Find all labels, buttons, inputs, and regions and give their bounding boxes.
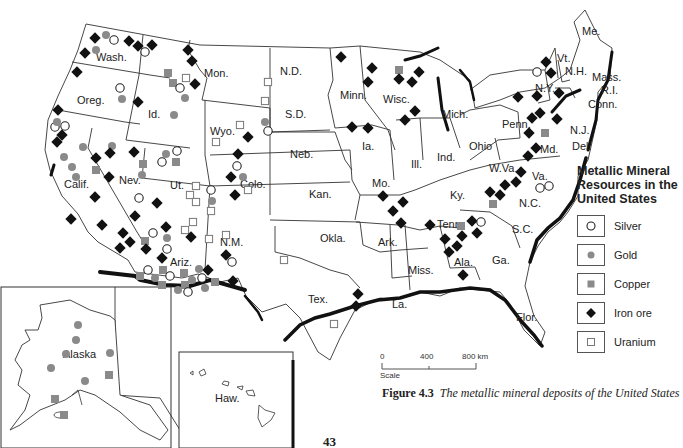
svg-text:Flor.: Flor. xyxy=(516,311,537,323)
svg-text:Tex.: Tex. xyxy=(308,293,328,305)
page-number: 43 xyxy=(323,434,336,448)
svg-text:Penn.: Penn. xyxy=(502,118,531,130)
svg-text:N.C.: N.C. xyxy=(519,197,541,209)
svg-text:Ohio: Ohio xyxy=(469,140,492,152)
legend-item-silver: Silver xyxy=(577,214,683,237)
map-legend: Metallic Mineral Resources in the United… xyxy=(577,164,683,359)
figure-number: Figure 4.3 xyxy=(382,386,434,400)
svg-text:Md.: Md. xyxy=(540,143,558,155)
svg-text:N.H.: N.H. xyxy=(565,65,587,77)
svg-text:Nev.: Nev. xyxy=(119,174,141,186)
legend-title: Metallic Mineral Resources in the United… xyxy=(577,164,683,206)
open-circle-icon xyxy=(577,215,605,237)
svg-text:Mon.: Mon. xyxy=(204,67,228,79)
svg-text:Kan.: Kan. xyxy=(309,188,332,200)
svg-text:Va.: Va. xyxy=(532,170,548,182)
svg-text:Wyo.: Wyo. xyxy=(210,125,235,137)
legend-item-copper: Copper xyxy=(577,272,683,295)
svg-text:Mass.: Mass. xyxy=(592,71,621,83)
svg-text:S.C.: S.C. xyxy=(512,223,533,235)
svg-text:La.: La. xyxy=(392,298,407,310)
svg-text:Ind.: Ind. xyxy=(437,151,455,163)
legend-item-gold: Gold xyxy=(577,243,683,266)
svg-text:R.I.: R.I. xyxy=(601,84,618,96)
svg-text:Okla.: Okla. xyxy=(320,232,346,244)
svg-text:Me.: Me. xyxy=(582,25,600,37)
legend-label: Iron ore xyxy=(614,307,652,319)
svg-text:Ill.: Ill. xyxy=(411,158,422,170)
svg-text:Ala.: Ala. xyxy=(454,256,473,268)
alaska-inset xyxy=(1,287,180,448)
svg-text:Ariz.: Ariz. xyxy=(170,256,192,268)
svg-text:N.J.: N.J. xyxy=(570,124,590,136)
legend-label: Gold xyxy=(614,249,637,261)
svg-text:Ut.: Ut. xyxy=(170,179,184,191)
svg-text:Miss.: Miss. xyxy=(408,264,434,276)
svg-text:Vt.: Vt. xyxy=(557,52,570,64)
gray-square-icon xyxy=(577,273,605,295)
svg-text:Minn.: Minn. xyxy=(340,89,367,101)
scale-label: Scale xyxy=(380,371,400,380)
legend-label: Uranium xyxy=(614,336,656,348)
svg-text:Wisc.: Wisc. xyxy=(383,93,410,105)
svg-text:Neb.: Neb. xyxy=(290,148,313,160)
legend-label: Silver xyxy=(614,220,642,232)
svg-text:Ky.: Ky. xyxy=(450,189,465,201)
svg-text:Ga.: Ga. xyxy=(492,254,510,266)
scale-tick-400: 400 xyxy=(420,352,433,361)
svg-text:Haw.: Haw. xyxy=(215,392,239,404)
open-square-icon xyxy=(577,331,605,353)
figure-caption: Figure 4.3 The metallic mineral deposits… xyxy=(382,385,682,401)
scale-tick-0: 0 xyxy=(380,352,384,361)
svg-text:N.D.: N.D. xyxy=(280,65,302,77)
scale-tick-800: 800 km xyxy=(462,352,488,361)
legend-label: Copper xyxy=(614,278,650,290)
scale-bar: 0 400 800 km Scale xyxy=(378,352,508,382)
svg-text:Del.: Del. xyxy=(572,140,592,152)
svg-text:Ark.: Ark. xyxy=(378,236,398,248)
svg-text:Wash.: Wash. xyxy=(96,51,127,63)
svg-text:Mo.: Mo. xyxy=(372,177,390,189)
svg-text:Id.: Id. xyxy=(148,108,160,120)
legend-item-uranium: Uranium xyxy=(577,330,683,353)
svg-text:S.D.: S.D. xyxy=(285,108,306,120)
svg-text:W.Va.: W.Va. xyxy=(489,162,518,174)
svg-text:Conn.: Conn. xyxy=(588,98,617,110)
figure-caption-text: The metallic mineral deposits of the Uni… xyxy=(440,386,680,400)
legend-item-iron-ore: Iron ore xyxy=(577,301,683,324)
black-diamond-icon xyxy=(577,302,605,324)
gray-dot-icon xyxy=(577,244,605,266)
svg-text:Oreg.: Oreg. xyxy=(77,94,105,106)
svg-text:Ia.: Ia. xyxy=(362,140,374,152)
svg-text:Mich.: Mich. xyxy=(442,108,468,120)
